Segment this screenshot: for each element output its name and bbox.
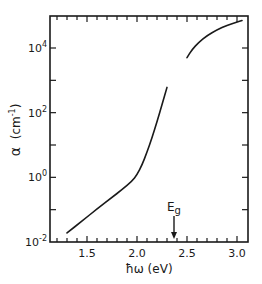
absorption-chart: 1.52.02.53.0 10-2100102104 Eg ħω (eV) α … [0,0,262,284]
y-axis-tick-labels: 10-2100102104 [25,40,47,249]
eg-annotation: Eg [167,200,181,239]
y-tick-label: 100 [28,169,47,184]
eg-label: Eg [167,200,181,216]
y-axis-title: α (cm-1) [7,104,23,157]
arrow-down-icon [171,232,177,239]
x-tick-label: 1.5 [78,247,96,260]
x-axis-title: ħω (eV) [125,262,172,276]
x-axis-minor-ticks [57,16,237,242]
x-tick-label: 2.5 [178,247,196,260]
y-tick-label: 104 [28,40,47,55]
y-tick-label: 102 [28,105,47,120]
x-axis-tick-labels: 1.52.02.53.0 [78,247,246,260]
series-line-1 [67,87,167,233]
y-tick-label: 10-2 [25,234,47,249]
y-axis-ticks [50,48,248,210]
series-line-2 [187,21,242,58]
x-tick-label: 3.0 [228,247,246,260]
svg-text:α (cm-1): α (cm-1) [7,104,23,157]
data-series [67,21,242,233]
x-tick-label: 2.0 [128,247,146,260]
plot-frame [50,16,248,242]
